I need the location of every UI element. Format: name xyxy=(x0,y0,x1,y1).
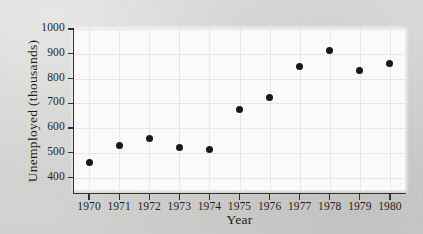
data-point xyxy=(206,146,213,153)
x-gridline xyxy=(149,29,150,190)
x-gridline xyxy=(209,29,210,190)
x-tick-label: 1980 xyxy=(368,200,412,212)
y-tick-label: 600 xyxy=(25,120,65,132)
data-point xyxy=(326,47,333,54)
x-axis-title: Year xyxy=(73,212,406,228)
x-gridline xyxy=(89,29,90,190)
x-gridline xyxy=(360,29,361,190)
data-point xyxy=(146,135,153,142)
x-gridline xyxy=(300,29,301,190)
y-tick-label: 400 xyxy=(25,170,65,182)
y-tick-label: 500 xyxy=(25,145,65,157)
y-tick-label: 1000 xyxy=(25,21,65,33)
x-gridline xyxy=(179,29,180,190)
y-tick-label: 800 xyxy=(25,71,65,83)
y-tick-mark xyxy=(68,28,74,29)
y-tick-label: 700 xyxy=(25,95,65,107)
y-tick-mark xyxy=(68,177,74,178)
y-tick-mark xyxy=(68,127,74,128)
data-point xyxy=(86,159,93,166)
data-point xyxy=(266,94,273,101)
data-point xyxy=(236,106,243,113)
y-tick-mark xyxy=(68,78,74,79)
y-tick-label: 900 xyxy=(25,46,65,58)
x-gridline xyxy=(119,29,120,190)
x-gridline xyxy=(270,29,271,190)
y-tick-mark xyxy=(68,152,74,153)
y-tick-mark xyxy=(68,103,74,104)
y-tick-mark xyxy=(68,53,74,54)
x-gridline xyxy=(390,29,391,190)
figure-canvas: Unemployed (thousands) Year 400500600700… xyxy=(0,0,423,234)
